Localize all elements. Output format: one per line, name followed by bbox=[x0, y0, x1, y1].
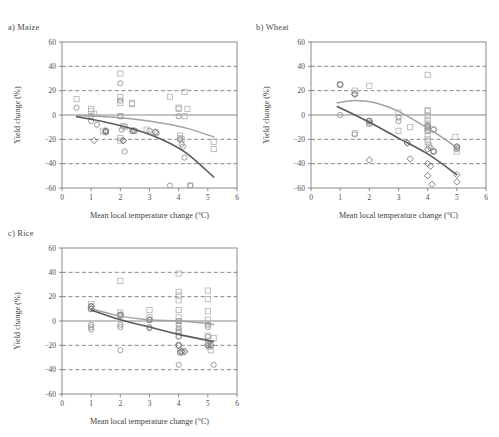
data-point-square bbox=[211, 146, 216, 151]
series-circle bbox=[338, 82, 460, 154]
plot-body bbox=[74, 71, 216, 188]
data-point-square bbox=[176, 106, 181, 111]
data-point-square bbox=[176, 293, 181, 298]
x-tick-label: 6 bbox=[235, 399, 239, 408]
plot-wheat: 01234566040200−20−40−60Mean local temper… bbox=[249, 30, 499, 230]
data-point-square bbox=[205, 317, 210, 322]
data-point-diamond bbox=[407, 156, 414, 163]
data-point-square bbox=[211, 139, 216, 144]
data-point-square bbox=[176, 105, 181, 110]
x-axis-title: Mean local temperature change (°C) bbox=[90, 211, 209, 220]
y-tick-label: 60 bbox=[49, 244, 57, 253]
x-tick-label: 5 bbox=[206, 399, 210, 408]
data-point-square bbox=[211, 335, 216, 340]
data-point-circle bbox=[176, 362, 181, 367]
y-tick-label: −20 bbox=[293, 135, 305, 144]
x-tick-label: 0 bbox=[309, 193, 313, 202]
series-square bbox=[74, 71, 216, 188]
data-point-circle bbox=[188, 183, 193, 188]
data-point-diamond bbox=[429, 181, 436, 188]
data-point-square bbox=[205, 288, 210, 293]
data-point-square bbox=[425, 108, 430, 113]
data-point-circle bbox=[118, 348, 123, 353]
x-tick-label: 3 bbox=[148, 399, 152, 408]
data-point-square bbox=[118, 278, 123, 283]
data-point-square bbox=[129, 100, 134, 105]
x-tick-label: 6 bbox=[235, 193, 239, 202]
y-tick-label: 0 bbox=[52, 317, 56, 326]
y-tick-label: 40 bbox=[298, 62, 306, 71]
data-point-circle bbox=[118, 81, 123, 86]
y-tick-label: 0 bbox=[52, 111, 56, 120]
fit-curve-without-adaptation bbox=[77, 117, 214, 177]
data-point-square bbox=[425, 114, 430, 119]
y-tick-label: −20 bbox=[44, 135, 56, 144]
data-point-square bbox=[147, 307, 152, 312]
x-tick-label: 1 bbox=[89, 193, 93, 202]
x-tick-label: 0 bbox=[60, 399, 64, 408]
data-point-square bbox=[453, 134, 458, 139]
plot-body bbox=[88, 271, 216, 367]
x-tick-label: 5 bbox=[455, 193, 459, 202]
data-point-diamond bbox=[424, 173, 431, 180]
data-point-square bbox=[176, 307, 181, 312]
y-tick-label: 20 bbox=[49, 86, 57, 95]
y-axis-title: Yield change (%) bbox=[13, 86, 22, 144]
data-point-circle bbox=[167, 183, 172, 188]
plot-rice: 01234566040200−20−40−60Mean local temper… bbox=[0, 236, 250, 436]
data-point-square bbox=[367, 83, 372, 88]
data-point-square bbox=[185, 106, 190, 111]
data-point-square bbox=[167, 94, 172, 99]
x-tick-label: 2 bbox=[118, 399, 122, 408]
y-axis-title: Yield change (%) bbox=[262, 86, 271, 144]
series-diamond bbox=[337, 81, 460, 187]
data-point-square bbox=[74, 97, 79, 102]
chart-panel-rice: 01234566040200−20−40−60Mean local temper… bbox=[0, 236, 250, 436]
x-axis-title: Mean local temperature change (°C) bbox=[90, 417, 209, 426]
x-tick-label: 1 bbox=[338, 193, 342, 202]
y-tick-label: 60 bbox=[298, 38, 306, 47]
y-tick-label: −40 bbox=[293, 159, 305, 168]
y-tick-label: −60 bbox=[293, 184, 305, 193]
y-tick-label: −60 bbox=[44, 184, 56, 193]
x-tick-label: 0 bbox=[60, 193, 64, 202]
data-point-diamond bbox=[454, 179, 461, 186]
data-point-circle bbox=[74, 105, 79, 110]
data-point-circle bbox=[205, 334, 210, 339]
x-tick-label: 3 bbox=[148, 193, 152, 202]
x-tick-label: 5 bbox=[206, 193, 210, 202]
data-point-circle bbox=[176, 114, 181, 119]
x-tick-label: 1 bbox=[89, 399, 93, 408]
data-point-square bbox=[176, 298, 181, 303]
data-point-diamond bbox=[366, 157, 373, 164]
data-point-square bbox=[182, 114, 187, 119]
y-tick-label: −40 bbox=[44, 365, 56, 374]
data-point-square bbox=[396, 128, 401, 133]
y-tick-label: 20 bbox=[298, 86, 306, 95]
x-tick-label: 4 bbox=[177, 193, 181, 202]
x-tick-label: 2 bbox=[367, 193, 371, 202]
data-point-square bbox=[408, 125, 413, 130]
x-axis-title: Mean local temperature change (°C) bbox=[339, 211, 458, 220]
fit-curve-without-adaptation bbox=[337, 106, 457, 174]
y-tick-label: 60 bbox=[49, 38, 57, 47]
data-point-square bbox=[205, 309, 210, 314]
data-point-square bbox=[205, 297, 210, 302]
y-tick-label: −60 bbox=[44, 390, 56, 399]
data-point-square bbox=[425, 109, 430, 114]
y-tick-label: 40 bbox=[49, 62, 57, 71]
x-tick-label: 4 bbox=[177, 399, 181, 408]
y-tick-label: 40 bbox=[49, 268, 57, 277]
data-point-square bbox=[176, 271, 181, 276]
y-tick-label: 20 bbox=[49, 292, 57, 301]
data-point-square bbox=[118, 71, 123, 76]
y-tick-label: 0 bbox=[301, 111, 305, 120]
data-point-square bbox=[425, 72, 430, 77]
y-tick-label: −40 bbox=[44, 159, 56, 168]
chart-panel-maize: 01234566040200−20−40−60Mean local temper… bbox=[0, 30, 250, 230]
data-point-square bbox=[182, 89, 187, 94]
data-point-circle bbox=[182, 155, 187, 160]
fit-curve-with-adaptation bbox=[337, 100, 457, 147]
y-tick-label: −20 bbox=[44, 341, 56, 350]
data-point-square bbox=[425, 117, 430, 122]
